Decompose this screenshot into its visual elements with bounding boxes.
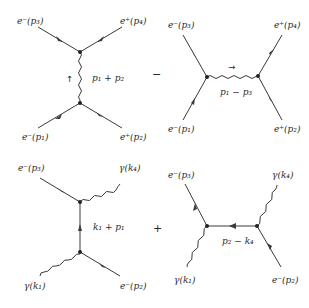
label-bottom-left: γ(k₁)	[24, 281, 46, 291]
label-top-left: e⁻(p₃)	[168, 20, 195, 30]
diagram-top-right: → p₁ − p₃ e⁻(p₃) e⁺(p₄) e⁻(p₁) e⁺(p₂)	[168, 20, 301, 134]
diagram-bottom-right: p₂ − k₄ e⁻(p₃) γ(k₄) γ(k₁) e⁻(p₂)	[168, 170, 299, 285]
photon-line-k4	[257, 185, 277, 226]
fermion-line-e-minus-p3	[185, 184, 207, 226]
label-bottom-right: e⁻(p₂)	[272, 275, 299, 285]
label-bottom-right: e⁺(p₂)	[120, 132, 147, 142]
label-top-right: γ(k₄)	[119, 163, 141, 173]
fermion-line-e-plus-p4	[258, 35, 282, 76]
label-top-left: e⁻(p₃)	[168, 170, 195, 180]
label-top-left: e⁻(p₃)	[18, 163, 45, 173]
propagator-arrow-icon: →	[228, 62, 235, 72]
arrow-icon	[193, 203, 197, 211]
label-top-right: γ(k₄)	[272, 170, 294, 180]
label-bottom-left: e⁻(p₁)	[168, 124, 195, 134]
arrow-icon	[229, 223, 236, 229]
photon-propagator	[207, 76, 258, 79]
propagator-momentum-label: p₁ + p₂	[92, 73, 124, 83]
fermion-line-e-minus-p1	[183, 77, 207, 120]
vertex	[78, 50, 82, 54]
arrow-icon	[55, 114, 62, 119]
vertex	[78, 101, 82, 105]
propagator-momentum-label: k₁ + p₁	[93, 222, 125, 232]
diagram-bottom-left: k₁ + p₁ e⁻(p₃) γ(k₄) γ(k₁) e⁻(p₂)	[18, 163, 147, 291]
label-bottom-right: e⁺(p₂)	[274, 124, 301, 134]
label-top-right: e⁺(p₄)	[120, 16, 147, 26]
feynman-diagrams-figure: ↑ p₁ + p₂ e⁻(p₃) e⁺(p₄) e⁻(p₁) e⁺(p₂) − …	[0, 0, 309, 308]
fermion-line-e-minus-p1	[38, 103, 80, 128]
diagram-top-left: ↑ p₁ + p₂ e⁻(p₃) e⁺(p₄) e⁻(p₁) e⁺(p₂)	[17, 16, 147, 142]
arrow-icon	[97, 36, 104, 42]
vertex	[205, 224, 209, 228]
label-top-right: e⁺(p₄)	[274, 20, 301, 30]
vertex	[78, 250, 82, 254]
fermion-line-e-plus-p2	[80, 103, 122, 128]
arrow-icon	[78, 224, 82, 231]
vertex	[255, 224, 259, 228]
vertex	[78, 200, 82, 204]
arrow-icon	[267, 243, 272, 250]
photon-propagator	[79, 52, 82, 103]
vertex	[256, 74, 260, 78]
photon-line-k1	[187, 226, 207, 267]
propagator-momentum-label: p₁ − p₃	[220, 87, 252, 97]
plus-operator: +	[153, 222, 162, 235]
fermion-line-e-plus-p2	[258, 76, 282, 120]
photon-line-k4	[80, 184, 120, 202]
photon-line-k1	[40, 254, 80, 276]
propagator-momentum-label: p₂ − k₄	[222, 236, 254, 246]
minus-operator: −	[152, 68, 161, 81]
label-bottom-right: e⁻(p₂)	[120, 281, 147, 291]
label-bottom-left: e⁻(p₁)	[22, 132, 49, 142]
propagator-arrow-icon: ↑	[66, 74, 73, 84]
label-top-left: e⁻(p₃)	[17, 16, 44, 26]
arrow-icon	[269, 49, 274, 55]
label-bottom-left: γ(k₁)	[174, 275, 196, 285]
vertex	[205, 75, 209, 79]
